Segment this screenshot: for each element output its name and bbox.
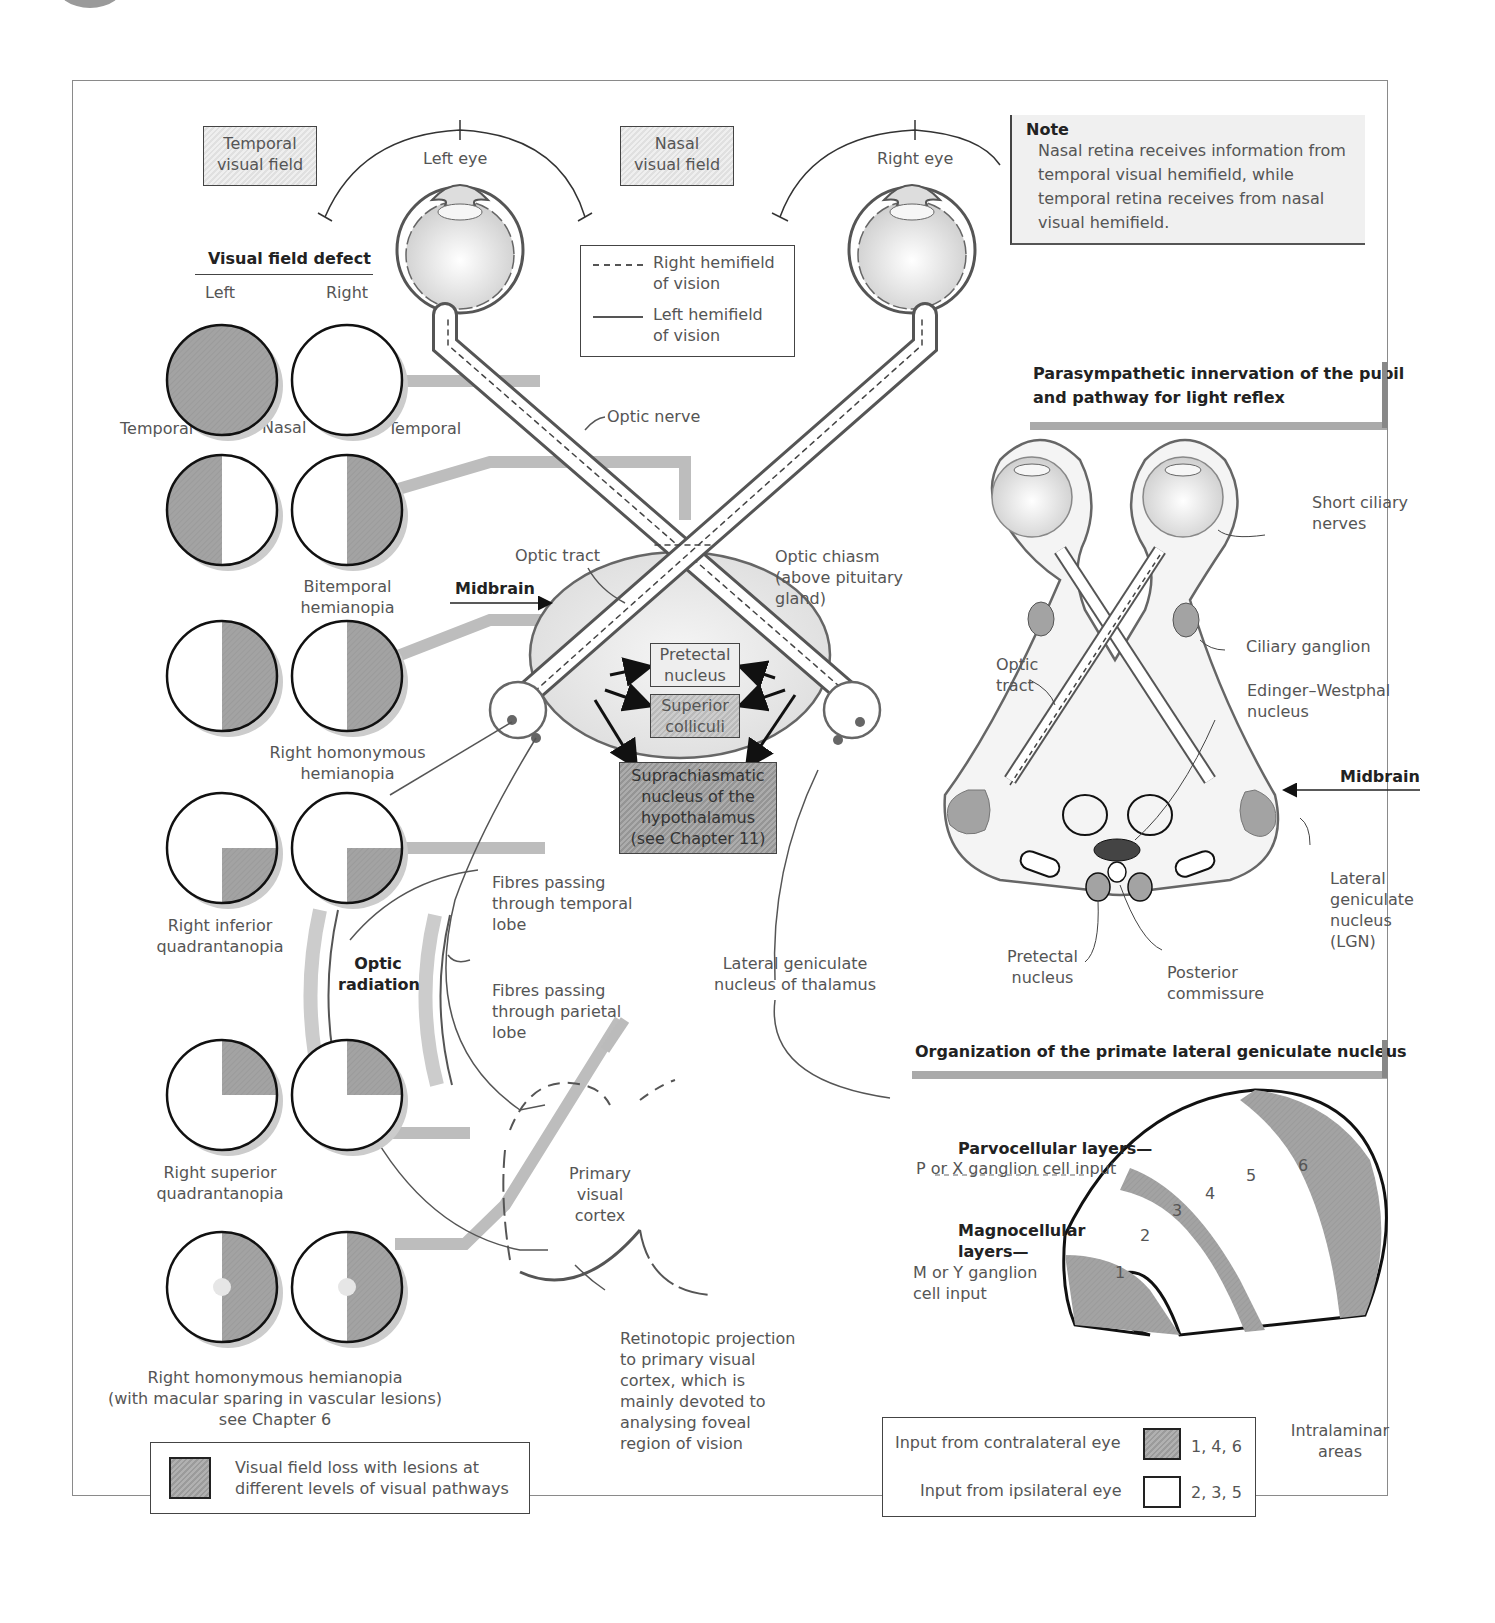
optic-nerve-label: Optic nerve	[607, 406, 700, 427]
legend-right-hemifield: Right hemifieldof vision	[653, 252, 775, 294]
column-right: Right	[326, 282, 368, 303]
column-left: Left	[205, 282, 235, 303]
fibres-temporal-label: Fibres passingthrough temporallobe	[492, 872, 632, 935]
layer-1: 1	[1115, 1262, 1125, 1283]
solid-line-swatch	[593, 316, 643, 318]
layer-2: 2	[1140, 1225, 1150, 1246]
ciliary-ganglion-label: Ciliary ganglion	[1246, 636, 1371, 657]
lgn-label: Lateralgeniculatenucleus(LGN)	[1330, 868, 1414, 952]
ipsilateral-label: Input from ipsilateral eye	[920, 1480, 1122, 1501]
layer-5: 5	[1246, 1165, 1256, 1186]
primary-visual-cortex-label: Primaryvisualcortex	[565, 1163, 635, 1226]
layer-3: 3	[1172, 1200, 1182, 1221]
parvocellular-sub: P or X ganglion cell input	[916, 1158, 1116, 1179]
lgn-organization-heading: Organization of the primate lateral geni…	[915, 1040, 1407, 1064]
optic-chiasm-label: Optic chiasm(above pituitarygland)	[775, 546, 903, 609]
note-body: Nasal retina receives information from t…	[1026, 139, 1365, 235]
left-eye-label: Left eye	[423, 148, 487, 169]
parasympathetic-heading: Parasympathetic innervation of the pupil…	[1033, 362, 1404, 410]
field-loss-swatch	[169, 1457, 211, 1499]
retinotopic-label: Retinotopic projectionto primary visualc…	[620, 1328, 795, 1454]
temporal-label-right: Temporal	[388, 418, 461, 439]
temporal-label-left: Temporal	[120, 418, 193, 439]
intralaminar-label: Intralaminarareas	[1290, 1420, 1390, 1462]
midbrain-label-left: Midbrain	[455, 578, 535, 599]
nasal-visual-field-box: Nasal visual field	[620, 126, 734, 186]
heading-bar-side	[1382, 1040, 1387, 1078]
right-eye-drawing	[849, 185, 975, 313]
hemifield-line-legend: Right hemifieldof vision Left hemifieldo…	[580, 245, 795, 357]
contralateral-swatch	[1143, 1428, 1181, 1460]
contralateral-layers: 1, 4, 6	[1191, 1436, 1242, 1457]
layer-6: 6	[1298, 1155, 1308, 1176]
ipsilateral-swatch	[1143, 1476, 1181, 1508]
posterior-commissure-label: Posteriorcommissure	[1167, 962, 1264, 1004]
contralateral-label: Input from contralateral eye	[895, 1432, 1121, 1453]
heading-underline	[195, 274, 373, 275]
box-line: visual field	[621, 154, 733, 175]
layer-4: 4	[1205, 1183, 1215, 1204]
box-line: Nasal	[621, 133, 733, 154]
nasal-label: Nasal	[262, 417, 306, 438]
suprachiasmatic-box: Suprachiasmaticnucleus of the hypothalam…	[619, 762, 777, 854]
fibres-parietal-label: Fibres passingthrough parietallobe	[492, 980, 621, 1043]
ipsilateral-layers: 2, 3, 5	[1191, 1482, 1242, 1503]
magnocellular-title: Magnocellularlayers—	[958, 1220, 1085, 1262]
pretectal-nucleus-label-2: Pretectalnucleus	[995, 946, 1090, 988]
edinger-westphal-label: Edinger–Westphalnucleus	[1247, 680, 1390, 722]
optic-tract-label-2: Optictract	[996, 654, 1038, 696]
optic-radiation-label: Opticradiation	[338, 953, 418, 995]
left-eye-drawing	[397, 185, 523, 313]
temporal-visual-field-box: Temporal visual field	[203, 126, 317, 186]
box-line: Temporal	[204, 133, 316, 154]
pretectal-nucleus-box: Pretectalnucleus	[650, 643, 740, 687]
visual-field-defect-heading: Visual field defect	[208, 248, 371, 269]
legend-left-hemifield: Left hemifieldof vision	[653, 304, 763, 346]
superior-colliculi-box: Superiorcolliculi	[650, 694, 740, 738]
caption-right-homonymous: Right homonymoushemianopia	[260, 742, 435, 784]
dashed-line-swatch	[593, 264, 643, 266]
note-box: Note Nasal retina receives information f…	[1010, 115, 1365, 245]
eye-input-legend: Input from contralateral eye 1, 4, 6 Inp…	[882, 1417, 1256, 1517]
caption-macular-sparing: Right homonymous hemianopia(with macular…	[100, 1367, 450, 1430]
caption-bitemporal: Bitemporalhemianopia	[280, 576, 415, 618]
midbrain-label-right: Midbrain	[1340, 766, 1420, 787]
short-ciliary-label: Short ciliarynerves	[1312, 492, 1408, 534]
parvocellular-title: Parvocellular layers—	[958, 1138, 1152, 1159]
heading-bar	[912, 1071, 1387, 1079]
magnocellular-sub: M or Y ganglioncell input	[913, 1262, 1037, 1304]
note-title: Note	[1026, 120, 1365, 139]
caption-superior-quadrantanopia: Right superiorquadrantanopia	[145, 1162, 295, 1204]
box-line: visual field	[204, 154, 316, 175]
caption-inferior-quadrantanopia: Right inferiorquadrantanopia	[145, 915, 295, 957]
heading-bar-side	[1382, 362, 1387, 428]
right-eye-label: Right eye	[877, 148, 953, 169]
heading-bar	[1030, 422, 1387, 430]
field-loss-legend: Visual field loss with lesions atdiffere…	[150, 1442, 530, 1514]
field-loss-legend-text: Visual field loss with lesions atdiffere…	[235, 1457, 509, 1499]
lgn-thalamus-label: Lateral geniculatenucleus of thalamus	[705, 953, 885, 995]
optic-tract-label: Optic tract	[515, 545, 600, 566]
